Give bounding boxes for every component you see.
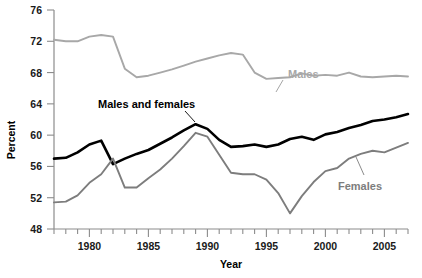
leader-line-males (276, 80, 283, 92)
series-label-females: Females (338, 180, 382, 192)
series-label-males: Males (288, 68, 319, 80)
x-tick-label: 2005 (373, 240, 397, 252)
y-axis-title: Percent (5, 120, 17, 159)
leader-line-females (356, 157, 364, 175)
x-axis-ticks (54, 229, 408, 237)
y-tick-label: 76 (30, 4, 42, 16)
x-axis-title: Year (220, 258, 242, 270)
series-line-males (54, 35, 408, 79)
y-tick-label: 68 (30, 67, 42, 79)
y-axis-tick-labels: 4852566064687276 (30, 4, 42, 235)
line-chart: 4852566064687276 19801985199019952000200… (0, 0, 422, 278)
y-tick-label: 60 (30, 129, 42, 141)
x-tick-label: 1995 (255, 240, 279, 252)
y-axis-ticks (47, 10, 54, 229)
chart-container: 4852566064687276 19801985199019952000200… (0, 0, 422, 278)
x-tick-label: 1980 (78, 240, 102, 252)
y-tick-label: 72 (30, 35, 42, 47)
leader-line-males-and-females (185, 111, 195, 122)
y-tick-label: 48 (30, 223, 42, 235)
y-tick-label: 64 (30, 98, 42, 110)
x-tick-label: 1990 (196, 240, 220, 252)
axes (54, 10, 408, 229)
series-line-females (54, 133, 408, 214)
y-tick-label: 52 (30, 192, 42, 204)
y-tick-label: 56 (30, 160, 42, 172)
x-tick-label: 1985 (137, 240, 161, 252)
x-tick-label: 2000 (314, 240, 338, 252)
x-axis-tick-labels: 198019851990199520002005 (78, 240, 397, 252)
series-label-males-and-females: Males and females (98, 98, 195, 110)
